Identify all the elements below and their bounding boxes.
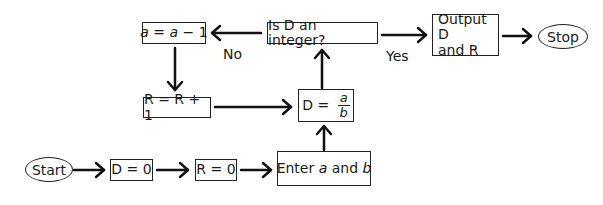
- enter-text: Enter: [277, 161, 319, 176]
- input-box: Enter a and b: [277, 151, 371, 186]
- decrement-a-box: a = a − 1: [142, 22, 206, 44]
- and-text: and: [327, 161, 362, 176]
- var-a: a: [140, 25, 149, 40]
- decision-box: Is D an integer?: [267, 22, 378, 44]
- output-line1: Output D: [438, 12, 498, 43]
- var-a: a: [319, 161, 328, 176]
- fraction: a b: [338, 91, 350, 120]
- divide-box: D = a b: [298, 89, 354, 122]
- yes-label: Yes: [386, 48, 409, 64]
- init-d-box: D = 0: [110, 159, 153, 181]
- stop-terminal: Stop: [538, 24, 588, 49]
- output-box: Output D and R: [432, 14, 499, 56]
- start-terminal: Start: [25, 157, 73, 182]
- output-line2: and R: [438, 43, 479, 58]
- increment-r-box: R = R + 1: [143, 97, 211, 118]
- divide-lhs: D =: [302, 98, 333, 113]
- denominator: b: [340, 106, 348, 120]
- numerator: a: [338, 91, 350, 106]
- minus-one: − 1: [178, 25, 208, 40]
- init-r-box: R = 0: [195, 159, 237, 181]
- equals: =: [149, 25, 170, 40]
- var-b: b: [363, 161, 372, 176]
- no-label: No: [223, 46, 242, 62]
- var-a: a: [170, 25, 179, 40]
